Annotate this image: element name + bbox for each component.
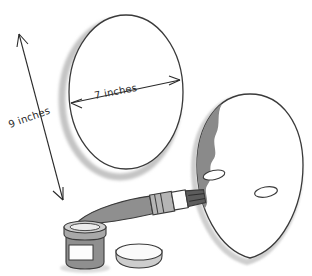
height-dimension-label: 9 inches	[7, 105, 52, 130]
illustration-canvas: 9 inches 7 inches	[0, 0, 312, 276]
paint-jar-group	[60, 221, 110, 273]
paint-jar-lid-top	[116, 244, 162, 260]
height-arrowhead-top-icon	[17, 34, 28, 47]
paint-jar-opening	[70, 223, 100, 230]
height-dimension-group: 9 inches	[7, 34, 63, 200]
right-mask-group	[186, 94, 303, 262]
mask-painting-illustration: 9 inches 7 inches	[0, 0, 312, 276]
paint-jar-lid-group	[116, 244, 162, 268]
paint-jar-label	[69, 245, 93, 260]
left-mask-group	[62, 15, 183, 177]
